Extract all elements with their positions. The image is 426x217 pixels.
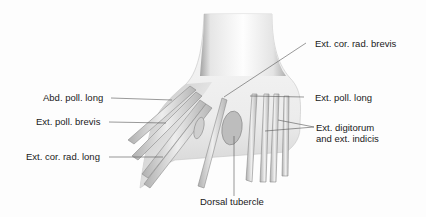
label-ext-cor-rad-brevis: Ext. cor. rad. brevis <box>315 38 396 49</box>
label-ext-digitorum-line2: and ext. indicis <box>316 133 379 144</box>
leader-abd-poll-long <box>111 98 172 100</box>
label-ext-poll-long: Ext. poll. long <box>315 92 372 103</box>
label-ext-cor-rad-long: Ext. cor. rad. long <box>26 151 100 162</box>
wrist-tendon-diagram: Abd. poll. long Ext. poll. brevis Ext. c… <box>0 0 426 217</box>
label-ext-digitorum-line1: Ext. digitorum <box>316 122 379 133</box>
label-ext-digitorum: Ext. digitorum and ext. indicis <box>316 122 379 144</box>
label-ext-poll-brevis: Ext. poll. brevis <box>36 116 100 127</box>
label-abd-poll-long: Abd. poll. long <box>43 92 103 103</box>
anatomy-illustration <box>0 0 426 217</box>
label-dorsal-tubercle: Dorsal tubercle <box>200 196 264 207</box>
